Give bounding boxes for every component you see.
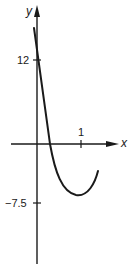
chart: y x 12 −7.5 1 [0, 0, 136, 271]
y-axis-label: y [26, 5, 32, 17]
x-axis-label: x [121, 137, 127, 149]
y-tick-label-12: 12 [17, 55, 29, 66]
x-tick-label-1: 1 [78, 127, 84, 138]
function-curve [34, 28, 98, 195]
plot-area [0, 0, 136, 271]
y-tick-label-neg7-5: −7.5 [5, 198, 27, 209]
x-axis-arrow-icon [106, 141, 119, 147]
y-axis-arrow-icon [34, 5, 40, 17]
